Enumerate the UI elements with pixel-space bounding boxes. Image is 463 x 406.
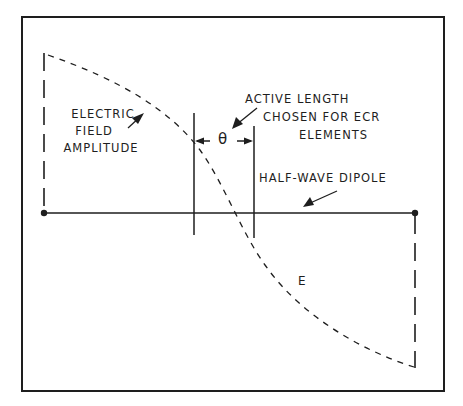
dipole-left-end-dot [41, 210, 47, 216]
e-field-symbol: E [298, 273, 307, 290]
frame-border [22, 17, 444, 391]
half-wave-dipole-label: HALF-WAVE DIPOLE [259, 170, 387, 187]
active-leader-arrowhead-icon [232, 117, 243, 129]
field-label-line2: FIELD [58, 123, 144, 140]
electric-field-curve [48, 55, 414, 367]
dipole-right-end-dot [412, 210, 418, 216]
theta-symbol: θ [218, 131, 227, 148]
active-length-label-line2: CHOSEN FOR ECR [263, 109, 380, 126]
dipole-leader-arrowhead-icon [303, 197, 314, 207]
field-label-line1: ELECTRIC [58, 106, 144, 123]
dipole-field-diagram: ELECTRIC FIELD AMPLITUDE ACTIVE LENGTH C… [0, 0, 463, 406]
field-label-line3: AMPLITUDE [58, 140, 144, 157]
active-length-label-line3: ELEMENTS [299, 127, 368, 144]
theta-left-arrowhead-icon [195, 138, 204, 145]
diagram-canvas [0, 0, 463, 406]
active-length-label-line1: ACTIVE LENGTH [245, 91, 349, 108]
theta-right-arrowhead-icon [244, 138, 253, 145]
field-amplitude-label: ELECTRIC FIELD AMPLITUDE [58, 106, 144, 157]
